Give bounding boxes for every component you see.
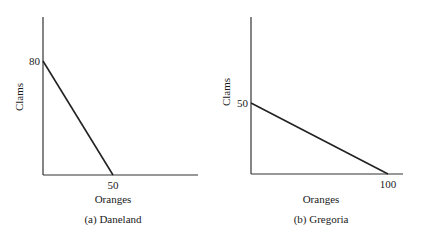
x-tick-label: 100 xyxy=(380,178,397,190)
x-axis-label: Oranges xyxy=(95,193,132,205)
chart-daneland: 80 50 Clams Oranges (a) Daneland xyxy=(13,17,198,226)
chart-caption: (a) Daneland xyxy=(84,213,142,226)
y-axis-label: Clams xyxy=(220,78,232,106)
x-axis-label: Oranges xyxy=(303,193,340,205)
chart-gregoria: 50 100 Clams Oranges (b) Gregoria xyxy=(220,17,403,226)
y-axis-label: Clams xyxy=(13,83,25,111)
chart-caption: (b) Gregoria xyxy=(294,213,349,226)
figure: 80 50 Clams Oranges (a) Daneland 50 100 … xyxy=(0,0,424,240)
x-tick-label: 50 xyxy=(108,179,120,191)
ppf-line xyxy=(251,103,388,174)
ppf-line xyxy=(43,61,113,175)
y-tick-label: 50 xyxy=(237,97,249,109)
y-tick-label: 80 xyxy=(29,55,41,67)
